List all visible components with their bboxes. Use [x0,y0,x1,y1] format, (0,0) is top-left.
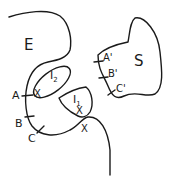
diagram-strokes [0,0,170,185]
cross-mark-i1: X [76,106,83,116]
point-c-prime-label: C' [116,84,126,94]
cross-mark-i2: X [34,89,41,99]
point-a-prime-label: A' [103,53,113,63]
point-b-prime-label: B' [108,69,118,79]
point-b-label: B [15,118,23,129]
topology-diagram: E S I2 I1 A B C A' B' C' X X X [0,0,170,185]
region-e-label: E [24,38,33,53]
region-s-label: S [134,54,144,69]
region-i2-label: I2 [50,70,58,81]
region-i2-subscript: 2 [53,76,57,84]
point-c-label: C [28,133,36,144]
point-a-label: A [12,90,20,101]
region-i1-label: I1 [73,94,81,105]
cross-mark-tail: X [81,124,88,134]
